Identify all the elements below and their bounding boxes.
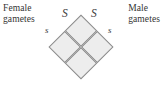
male-gametes-label-line2: gametes bbox=[128, 14, 160, 25]
punnett-grid bbox=[48, 14, 113, 79]
allele-top-left: S bbox=[62, 8, 68, 20]
allele-right: s bbox=[108, 26, 112, 35]
female-gametes-label: Female gametes bbox=[3, 3, 35, 25]
male-gametes-label: Male gametes bbox=[128, 3, 160, 25]
female-gametes-label-line1: Female bbox=[3, 3, 35, 14]
punnett-square-diagram: Female gametes Male gametes S S s s bbox=[0, 0, 163, 85]
female-gametes-label-line2: gametes bbox=[3, 14, 35, 25]
allele-top-right: S bbox=[91, 8, 97, 20]
male-gametes-label-line1: Male bbox=[128, 3, 160, 14]
allele-left: s bbox=[45, 26, 49, 35]
